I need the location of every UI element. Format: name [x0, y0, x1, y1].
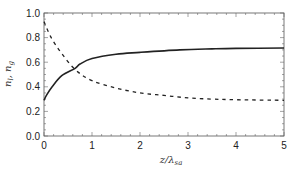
plot-frame: [44, 13, 284, 136]
x-tick-label: 2: [137, 140, 143, 151]
x-tick-label: 5: [281, 140, 287, 151]
solid-curve: [44, 48, 284, 100]
dashed-curve: [44, 22, 284, 101]
y-tick-label: 0.8: [26, 32, 40, 43]
y-tick-label: 1.0: [26, 8, 40, 19]
x-tick-label: 0: [41, 140, 47, 151]
y-axis-label: nl, ng: [2, 60, 15, 87]
y-tick-label: 0.2: [26, 106, 40, 117]
x-axis-label: z/λsa: [159, 154, 183, 167]
x-tick-labels: 012345: [41, 140, 287, 151]
axis-ticks: [44, 13, 284, 136]
x-tick-label: 3: [185, 140, 191, 151]
x-tick-label: 4: [233, 140, 239, 151]
data-series: [44, 22, 284, 101]
line-chart: 0.00.20.40.60.81.0 012345 z/λsa nl, ng: [0, 0, 299, 175]
x-tick-label: 1: [89, 140, 95, 151]
y-tick-label: 0.4: [26, 81, 40, 92]
plot-border: [44, 13, 284, 136]
y-tick-label: 0.0: [26, 131, 40, 142]
y-tick-label: 0.6: [26, 57, 40, 68]
y-tick-labels: 0.00.20.40.60.81.0: [26, 8, 40, 142]
